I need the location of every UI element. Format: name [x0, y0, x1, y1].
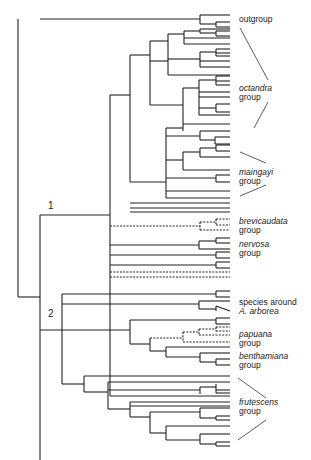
group-bracket-line: [240, 185, 266, 196]
group-label-line2: group: [239, 339, 272, 348]
group-label-line2: group: [239, 249, 269, 258]
group-label-maingayi: maingayigroup: [239, 168, 273, 186]
group-label-papuana: papuanagroup: [239, 330, 272, 348]
group-bracket-line: [238, 420, 266, 440]
group-label-benthamiana: benthamianagroup: [239, 352, 288, 370]
group-label-line1: outgroup: [239, 15, 273, 24]
group-bracket-line: [240, 28, 268, 80]
group-label-line2: group: [239, 361, 288, 370]
group-label-line2: A. arborea: [239, 307, 297, 316]
node-label: 2: [48, 308, 54, 319]
group-label-nervosa: nervosagroup: [239, 240, 269, 258]
group-label-line2: group: [239, 226, 288, 235]
group-label-outgroup: outgroup: [239, 15, 273, 24]
node-label: 1: [48, 200, 54, 211]
group-label-arborea: species aroundA. arborea: [239, 298, 297, 316]
group-label-line2: group: [239, 407, 278, 416]
group-bracket-line: [238, 378, 266, 398]
group-label-line2: group: [239, 177, 273, 186]
branch: [216, 306, 230, 311]
group-label-octandra: octandragroup: [239, 84, 272, 102]
group-label-line2: group: [239, 93, 272, 102]
group-bracket-line: [254, 102, 268, 128]
phylogenetic-tree-figure: outgroupoctandragroupmaingayigroupbrevic…: [0, 0, 311, 460]
group-bracket-line: [240, 152, 266, 163]
group-label-frutescens: frutescensgroup: [239, 398, 278, 416]
group-label-brevicaudata: brevicaudatagroup: [239, 217, 288, 235]
